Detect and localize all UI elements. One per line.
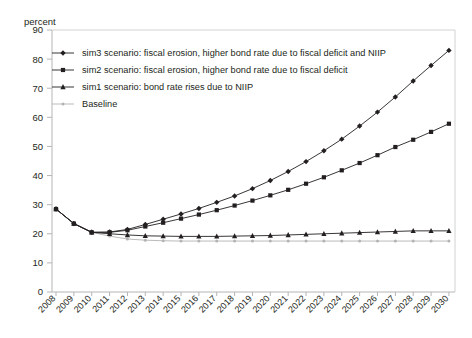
marker-dot [62, 103, 65, 106]
marker-dot [126, 238, 129, 241]
marker-dot [287, 240, 290, 243]
y-tick-label: 80 [32, 54, 43, 65]
legend-label: sim2 scenario: fiscal erosion, higher bo… [82, 65, 348, 75]
y-tick-label: 40 [32, 170, 43, 181]
marker-dot [447, 240, 450, 243]
marker-dot [162, 239, 165, 242]
marker-dot [233, 240, 236, 243]
marker-dot [144, 239, 147, 242]
legend-item[interactable]: sim3 scenario: fiscal erosion, higher bo… [52, 48, 386, 58]
marker-square [233, 203, 237, 207]
marker-dot [376, 240, 379, 243]
legend-item[interactable]: sim2 scenario: fiscal erosion, higher bo… [52, 65, 348, 75]
marker-dot [430, 240, 433, 243]
marker-square [179, 217, 183, 221]
marker-dot [180, 240, 183, 243]
marker-square [197, 212, 201, 216]
legend-label: Baseline [82, 99, 117, 109]
marker-dot [340, 240, 343, 243]
chart-container: percent 0102030405060708090 200820092010… [0, 0, 472, 338]
marker-square [447, 122, 451, 126]
y-tick-label: 50 [32, 141, 43, 152]
marker-square [268, 193, 272, 197]
marker-square [340, 168, 344, 172]
legend-label: sim1 scenario: bond rate rises due to NI… [82, 82, 253, 92]
y-tick-label: 30 [32, 199, 43, 210]
marker-square [286, 188, 290, 192]
marker-dot [322, 240, 325, 243]
marker-square [411, 138, 415, 142]
y-tick-label: 90 [32, 24, 43, 35]
y-tick-label: 70 [32, 83, 43, 94]
legend-label: sim3 scenario: fiscal erosion, higher bo… [82, 48, 386, 58]
marker-square [61, 68, 65, 72]
marker-dot [269, 240, 272, 243]
marker-square [304, 182, 308, 186]
marker-dot [197, 240, 200, 243]
y-tick-label: 0 [38, 286, 43, 297]
percent-debt-line-chart: percent 0102030405060708090 200820092010… [0, 0, 472, 338]
marker-dot [394, 240, 397, 243]
marker-dot [251, 240, 254, 243]
marker-square [375, 153, 379, 157]
marker-square [250, 198, 254, 202]
marker-square [393, 145, 397, 149]
marker-square [429, 130, 433, 134]
y-tick-label: 10 [32, 257, 43, 268]
marker-dot [215, 240, 218, 243]
marker-square [322, 175, 326, 179]
legend-item[interactable]: sim1 scenario: bond rate rises due to NI… [52, 82, 253, 92]
marker-dot [412, 240, 415, 243]
y-tick-label: 60 [32, 112, 43, 123]
marker-dot [305, 240, 308, 243]
marker-dot [358, 240, 361, 243]
marker-square [215, 208, 219, 212]
marker-square [358, 161, 362, 165]
y-tick-label: 20 [32, 228, 43, 239]
